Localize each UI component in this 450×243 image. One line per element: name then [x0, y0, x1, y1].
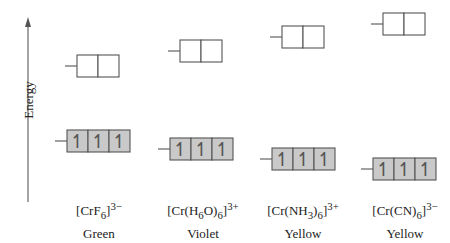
orbital-box: [404, 13, 425, 35]
orbital-box: [383, 13, 404, 35]
orbital-box: [180, 40, 201, 62]
electron-spin-up-icon: ↿: [91, 130, 107, 152]
electron-spin-up-icon: ↿: [70, 130, 86, 152]
eg-orbital-set: [371, 13, 425, 35]
eg-orbital-set: [270, 26, 324, 48]
t2g-orbital-set: ↿↿↿: [158, 138, 233, 160]
electron-spin-up-icon: ↿: [215, 138, 231, 160]
electron-spin-up-icon: ↿: [112, 130, 128, 152]
complex-formula: [Cr(NH3)6]3+: [248, 198, 358, 223]
electron-spin-up-icon: ↿: [296, 148, 312, 170]
complex-label-cr-nh3: [Cr(NH3)6]3+ Yellow: [248, 198, 358, 242]
eg-orbital-set: [65, 55, 119, 77]
electron-spin-up-icon: ↿: [275, 148, 291, 170]
orbital-box: [98, 55, 119, 77]
complex-color: Green: [44, 226, 154, 242]
complex-formula: [CrF6]3−: [44, 198, 154, 223]
electron-spin-up-icon: ↿: [194, 138, 210, 160]
complex-color: Violet: [148, 226, 258, 242]
electron-spin-up-icon: ↿: [376, 158, 392, 180]
complex-label-cr-h2o: [Cr(H6O)6]3+ Violet: [148, 198, 258, 242]
electron-spin-up-icon: ↿: [418, 158, 434, 180]
complex-formula: [Cr(CN)6]3−: [350, 198, 450, 223]
complex-label-crf6: [CrF6]3− Green: [44, 198, 154, 242]
eg-orbital-set: [168, 40, 222, 62]
t2g-orbital-set: ↿↿↿: [361, 158, 436, 180]
energy-axis-arrowhead-icon: [25, 17, 31, 27]
electron-spin-up-icon: ↿: [173, 138, 189, 160]
orbital-levels: ↿↿↿↿↿↿↿↿↿↿↿↿: [55, 13, 436, 180]
complex-label-cr-cn: [Cr(CN)6]3− Yellow: [350, 198, 450, 242]
orbital-box: [77, 55, 98, 77]
orbital-box: [303, 26, 324, 48]
orbital-box: [282, 26, 303, 48]
t2g-orbital-set: ↿↿↿: [260, 148, 335, 170]
energy-axis-label: Energy: [21, 75, 37, 125]
electron-spin-up-icon: ↿: [317, 148, 333, 170]
complex-color: Yellow: [350, 226, 450, 242]
complex-color: Yellow: [248, 226, 358, 242]
electron-spin-up-icon: ↿: [397, 158, 413, 180]
orbital-box: [201, 40, 222, 62]
complex-formula: [Cr(H6O)6]3+: [148, 198, 258, 223]
t2g-orbital-set: ↿↿↿: [55, 130, 130, 152]
